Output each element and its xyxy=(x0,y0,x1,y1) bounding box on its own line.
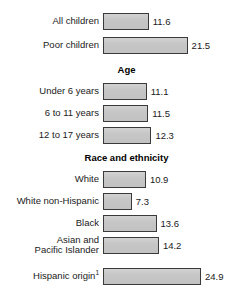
bar-value-label: 24.9 xyxy=(205,271,224,282)
bar-value-label: 11.6 xyxy=(153,16,171,27)
bar-container: 7.3 xyxy=(103,191,239,211)
bar-container: 11.6 xyxy=(103,11,239,31)
bar-container: 13.6 xyxy=(103,213,239,233)
bar xyxy=(103,127,151,144)
bar-value-label: 11.5 xyxy=(152,108,170,119)
bar-container: 14.2 xyxy=(103,235,239,255)
bar-value-label: 10.9 xyxy=(150,174,169,185)
bar-row: White 10.9 xyxy=(0,169,239,189)
bar-value-label: 21.5 xyxy=(192,40,211,51)
category-label: Hispanic origin1 xyxy=(0,271,103,281)
bar-container: 10.9 xyxy=(103,169,239,189)
bar xyxy=(103,237,159,254)
category-label: Black xyxy=(0,218,103,228)
bar-container: 11.1 xyxy=(103,81,239,101)
bar-container: 24.9 xyxy=(103,266,239,286)
bar-value-label: 14.2 xyxy=(163,240,182,251)
category-label: 12 to 17 years xyxy=(0,130,103,140)
bar xyxy=(103,105,148,122)
bar xyxy=(103,215,157,232)
bar-row: Poor children 21.5 xyxy=(0,35,239,55)
bar-row: Asian and Pacific Islander 14.2 xyxy=(0,235,239,255)
category-label: White xyxy=(0,174,103,184)
category-label: Poor children xyxy=(0,40,103,50)
group-header-age: Age xyxy=(0,64,239,75)
category-label: Under 6 years xyxy=(0,86,103,96)
bar xyxy=(103,13,149,30)
group-header-race-and-ethnicity: Race and ethnicity xyxy=(0,152,239,163)
bar-value-label: 13.6 xyxy=(161,218,180,229)
bar-row: Hispanic origin1 24.9 xyxy=(0,266,239,286)
bar xyxy=(103,37,188,54)
bar-container: 21.5 xyxy=(103,35,239,55)
bar-row: 12 to 17 years 12.3 xyxy=(0,125,239,145)
bar-row: Under 6 years 11.1 xyxy=(0,81,239,101)
bar-container: 11.5 xyxy=(103,103,239,123)
bar-value-label: 12.3 xyxy=(155,130,174,141)
bar xyxy=(103,268,201,285)
bar xyxy=(103,83,147,100)
bar-row: 6 to 11 years 11.5 xyxy=(0,103,239,123)
horizontal-bar-chart: All children 11.6 Poor children 21.5 Age… xyxy=(0,0,239,303)
bar xyxy=(103,193,132,210)
bar-value-label: 7.3 xyxy=(136,196,149,207)
bar-row: All children 11.6 xyxy=(0,11,239,31)
bar-row: Black 13.6 xyxy=(0,213,239,233)
footnote-marker: 1 xyxy=(95,269,99,276)
category-label: All children xyxy=(0,16,103,26)
category-label-text: Hispanic origin xyxy=(33,270,95,281)
category-label: 6 to 11 years xyxy=(0,108,103,118)
bar-value-label: 11.1 xyxy=(151,86,169,97)
bar-row: White non-Hispanic 7.3 xyxy=(0,191,239,211)
category-label: Asian and Pacific Islander xyxy=(0,235,103,255)
bar xyxy=(103,171,146,188)
bar-container: 12.3 xyxy=(103,125,239,145)
category-label: White non-Hispanic xyxy=(0,196,103,206)
